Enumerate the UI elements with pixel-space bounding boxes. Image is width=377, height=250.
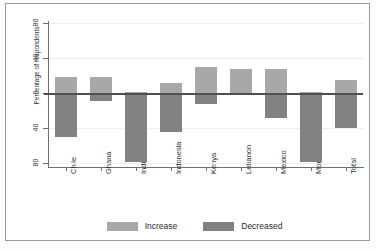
x-tick: [136, 167, 137, 171]
bar: [300, 93, 322, 162]
x-tick: [171, 167, 172, 171]
gridline: [49, 23, 363, 24]
bar: [230, 69, 252, 93]
y-tick-label: 80: [32, 156, 39, 170]
gridline: [49, 163, 363, 164]
y-tick-label: 40: [32, 51, 39, 65]
bar: [55, 77, 77, 93]
y-tick: [43, 128, 48, 129]
x-tick: [346, 167, 347, 171]
plot-area: [49, 23, 363, 163]
bar: [160, 83, 182, 93]
bar: [160, 93, 182, 132]
x-tick: [276, 167, 277, 171]
bar: [195, 93, 217, 104]
bar: [335, 80, 357, 93]
legend-label-decreased: Decreased: [241, 221, 282, 231]
bar: [90, 77, 112, 93]
y-tick: [43, 163, 48, 164]
chart-figure: Percentage of respondents 804004080 Chil…: [0, 0, 377, 250]
x-tick: [241, 167, 242, 171]
y-tick-label: 0: [32, 86, 39, 100]
bar: [55, 93, 77, 137]
x-tick: [101, 167, 102, 171]
chart-legend: Increase Decreased: [6, 218, 377, 234]
bar: [195, 67, 217, 93]
bar: [125, 93, 147, 162]
chart-frame: Percentage of respondents 804004080 Chil…: [5, 3, 370, 241]
zero-baseline: [44, 93, 363, 95]
gridline: [49, 58, 363, 59]
x-tick: [206, 167, 207, 171]
y-tick: [43, 58, 48, 59]
bar: [265, 69, 287, 94]
increase-swatch: [107, 222, 138, 231]
legend-item-decreased: Decreased: [203, 221, 282, 231]
legend-label-increase: Increase: [145, 221, 178, 231]
decreased-swatch: [203, 222, 234, 231]
bar: [335, 93, 357, 128]
y-tick-label: 80: [32, 16, 39, 30]
x-tick: [311, 167, 312, 171]
x-tick: [66, 167, 67, 171]
legend-item-increase: Increase: [107, 221, 178, 231]
bar: [265, 93, 287, 118]
y-tick: [43, 23, 48, 24]
y-tick-label: 40: [32, 121, 39, 135]
